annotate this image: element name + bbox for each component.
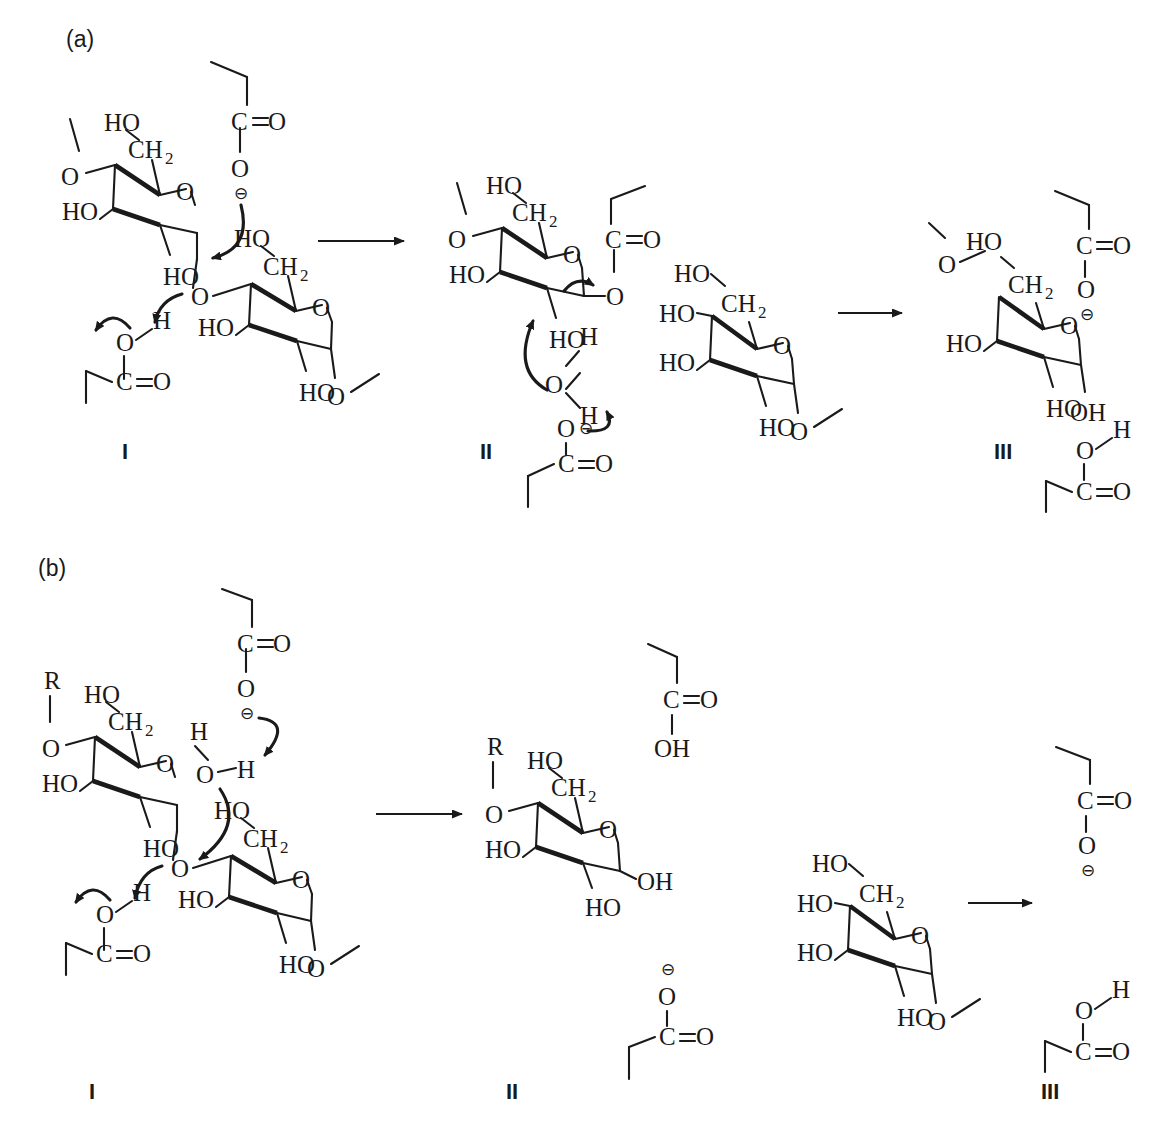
atom-sub-2: 2 bbox=[588, 787, 597, 806]
atom-C: C bbox=[1076, 478, 1093, 505]
panel-a-structure-I: C O O ⊖ O O HO CH 2 bbox=[61, 62, 379, 464]
propanoate-anion: ⊖ O C O bbox=[629, 960, 714, 1079]
atom-H: H bbox=[1113, 416, 1131, 443]
atom-C: C bbox=[1077, 787, 1094, 814]
atom-HO: HO bbox=[214, 797, 250, 824]
atom-O: O bbox=[42, 735, 60, 762]
atom-HO: HO bbox=[659, 349, 695, 376]
atom-H: H bbox=[1112, 976, 1130, 1003]
figure-canvas: (a) C O O ⊖ O O bbox=[0, 0, 1176, 1147]
atom-O: O bbox=[1112, 1038, 1130, 1065]
panel-a-label: (a) bbox=[66, 26, 94, 52]
atom-OH: OH bbox=[637, 868, 673, 895]
atom-C: C bbox=[231, 108, 248, 135]
panel-b-label: (b) bbox=[38, 555, 66, 581]
propanoate-anion: C O O ⊖ bbox=[1055, 191, 1131, 324]
atom-HO: HO bbox=[485, 836, 521, 863]
atom-HO: HO bbox=[178, 886, 214, 913]
atom-O: O bbox=[595, 450, 613, 477]
atom-sub-2: 2 bbox=[145, 721, 154, 740]
atom-HO: HO bbox=[966, 228, 1002, 255]
propanoic-acid-lower-left: O H C O bbox=[86, 307, 171, 403]
atom-HO: HO bbox=[84, 681, 120, 708]
sugar-ring-lower-right: O O O HO CH 2 HO HO bbox=[191, 225, 379, 410]
atom-O: O bbox=[273, 630, 291, 657]
atom-sub-2: 2 bbox=[165, 149, 174, 168]
propanoate-upper: C O O ⊖ bbox=[222, 589, 291, 723]
atom-CH: CH bbox=[512, 199, 547, 226]
atom-O: O bbox=[1114, 787, 1132, 814]
atom-CH: CH bbox=[128, 136, 163, 163]
atom-C: C bbox=[558, 450, 575, 477]
atom-HO: HO bbox=[198, 314, 234, 341]
atom-C: C bbox=[605, 226, 622, 253]
atom-CH: CH bbox=[721, 290, 756, 317]
atom-HO: HO bbox=[659, 300, 695, 327]
atom-C: C bbox=[659, 1023, 676, 1050]
atom-O: O bbox=[928, 1008, 946, 1035]
atom-O: O bbox=[1075, 997, 1093, 1024]
species-label-III: III bbox=[1041, 1079, 1059, 1104]
atom-R: R bbox=[487, 733, 504, 760]
atom-O: O bbox=[237, 675, 255, 702]
panel-a-structure-III: C O O ⊖ O HO CH 2 O HO HO bbox=[929, 191, 1131, 512]
atom-O: O bbox=[61, 163, 79, 190]
sugar-ring-lower-right: O O O HO CH 2 HO HO bbox=[171, 797, 359, 982]
atom-CH: CH bbox=[243, 825, 278, 852]
atom-HO: HO bbox=[279, 951, 315, 978]
r-glycoside: R O O HO CH 2 HO HO OH bbox=[485, 733, 673, 921]
atom-HO: HO bbox=[946, 330, 982, 357]
charge-minus: ⊖ bbox=[579, 419, 593, 438]
atom-H: H bbox=[580, 323, 598, 350]
atom-O: O bbox=[1113, 232, 1131, 259]
atom-O: O bbox=[268, 108, 286, 135]
atom-HO: HO bbox=[62, 198, 98, 225]
water-molecule: H O H bbox=[190, 718, 255, 788]
atom-O: O bbox=[606, 283, 624, 310]
panel-b-structure-I: C O O ⊖ H O H R O O bbox=[42, 589, 359, 1104]
atom-CH: CH bbox=[859, 880, 894, 907]
mechanism-arrow-base bbox=[259, 718, 278, 755]
charge-minus: ⊖ bbox=[661, 960, 675, 979]
atom-O: O bbox=[700, 686, 718, 713]
panel-b-structure-III: C O O ⊖ O H C O III bbox=[1041, 747, 1132, 1104]
atom-HO: HO bbox=[527, 747, 563, 774]
atom-O: O bbox=[196, 761, 214, 788]
atom-sub-2: 2 bbox=[758, 303, 767, 322]
panel-a-structure-II: O O HO CH 2 HO HO O C bbox=[448, 172, 661, 507]
sugar-ring-upper-left: R O O HO CH 2 HO HO bbox=[42, 667, 179, 862]
atom-R: R bbox=[44, 667, 61, 694]
atom-H: H bbox=[190, 718, 208, 745]
propanoate-anion: C O O ⊖ bbox=[1056, 747, 1132, 880]
charge-minus: ⊖ bbox=[1080, 305, 1094, 324]
atom-HO: HO bbox=[812, 850, 848, 877]
atom-O: O bbox=[1076, 437, 1094, 464]
atom-HO: HO bbox=[797, 939, 833, 966]
propanoic-acid: C O OH bbox=[648, 644, 718, 762]
atom-HO: HO bbox=[674, 260, 710, 287]
atom-O: O bbox=[658, 983, 676, 1010]
atom-O: O bbox=[938, 251, 956, 278]
atom-C: C bbox=[663, 686, 680, 713]
atom-sub-2: 2 bbox=[1045, 284, 1054, 303]
atom-O: O bbox=[448, 226, 466, 253]
atom-C: C bbox=[96, 940, 113, 967]
atom-C: C bbox=[237, 630, 254, 657]
atom-O: O bbox=[696, 1023, 714, 1050]
atom-CH: CH bbox=[263, 253, 298, 280]
atom-HO: HO bbox=[42, 770, 78, 797]
panel-a-intermediate-sugar: HO CH 2 O HO HO HO O bbox=[659, 260, 842, 445]
propanoic-acid: O H C O bbox=[1046, 416, 1131, 512]
atom-sub-2: 2 bbox=[896, 893, 905, 912]
atom-O: O bbox=[1113, 478, 1131, 505]
species-label-III: III bbox=[994, 439, 1012, 464]
atom-OH: OH bbox=[654, 735, 690, 762]
atom-OH: OH bbox=[1070, 399, 1106, 426]
charge-minus: ⊖ bbox=[234, 184, 248, 203]
atom-O: O bbox=[1077, 276, 1095, 303]
atom-C: C bbox=[116, 368, 133, 395]
atom-C: C bbox=[1076, 232, 1093, 259]
atom-O: O bbox=[231, 155, 249, 182]
atom-CH: CH bbox=[551, 774, 586, 801]
species-label-II: II bbox=[506, 1079, 518, 1104]
